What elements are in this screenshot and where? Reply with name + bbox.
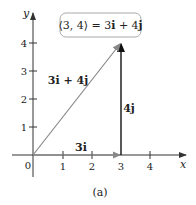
x-tick-label-2: 2 [89,161,95,172]
x-axis-label: x [180,158,187,171]
y-tick-label-4: 4 [21,38,27,49]
y-axis-label: y [22,7,30,20]
equation-text: ⟨3, 4⟩ = 3i + 4j [58,19,142,32]
origin-label: 0 [25,160,31,171]
figure-caption: (a) [92,186,107,199]
diagonal-vector-label: 3i + 4j [48,74,88,87]
diagonal-vector-3i-4j [33,44,120,155]
x-tick-label-3: 3 [118,161,124,172]
vertical-vector-label: 4j [123,102,135,115]
x-tick-label-4: 4 [147,161,153,172]
vector-diagram: ⟨3, 4⟩ = 3i + 4j 1 2 3 4 0 1 2 3 4 x y 3… [0,0,196,205]
y-tick-label-3: 3 [21,66,27,77]
y-tick-label-2: 2 [21,94,27,105]
horizontal-vector-label: 3i [75,141,87,154]
y-tick-label-1: 1 [21,122,27,133]
x-tick-label-1: 1 [60,161,66,172]
